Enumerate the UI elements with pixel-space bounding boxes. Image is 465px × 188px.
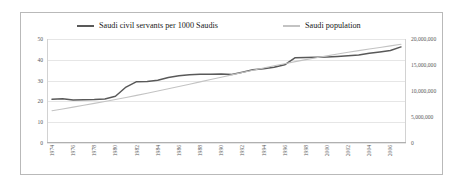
left-axis-tick-label: 30 xyxy=(37,78,43,84)
x-axis-tick-label: 1998 xyxy=(303,145,309,156)
legend-label-civil-servants: Saudi civil servants per 1000 Saudis xyxy=(99,22,218,30)
series-lines xyxy=(47,39,406,143)
gridline xyxy=(47,143,406,144)
left-axis-tick-label: 10 xyxy=(37,119,43,125)
x-axis-tick-label: 1982 xyxy=(134,145,140,156)
right-axis-tick-label: 15,000,000 xyxy=(411,62,436,68)
x-axis-tick-label: 1976 xyxy=(70,145,76,156)
right-axis-tick-label: 5,000,000 xyxy=(411,114,433,120)
legend-swatch-civil-servants xyxy=(77,25,94,27)
left-axis-tick-label: 20 xyxy=(37,98,43,104)
right-axis-tick-label: 10,000,000 xyxy=(411,88,436,94)
plot-area: 01020304050 05,000,00010,000,00015,000,0… xyxy=(47,39,406,143)
legend-label-population: Saudi population xyxy=(305,22,361,30)
x-axis-tick-label: 1986 xyxy=(176,145,182,156)
right-axis-tick-label: 0 xyxy=(411,140,414,146)
legend-item-civil-servants: Saudi civil servants per 1000 Saudis xyxy=(77,22,218,30)
left-axis-tick-label: 50 xyxy=(37,36,43,42)
x-axis-tick-label: 1990 xyxy=(218,145,224,156)
x-axis-tick-label: 1984 xyxy=(155,145,161,156)
x-axis-tick-label: 1980 xyxy=(112,145,118,156)
legend-item-population: Saudi population xyxy=(283,22,361,30)
x-axis-tick-label: 2004 xyxy=(366,145,372,156)
left-axis-tick-label: 40 xyxy=(37,57,43,63)
series-line xyxy=(52,47,401,100)
left-axis-tick-label: 0 xyxy=(40,140,43,146)
x-axis-tick-label: 2002 xyxy=(345,145,351,156)
x-axis-tick-label: 1992 xyxy=(239,145,245,156)
series-line xyxy=(52,44,401,110)
chart-legend: Saudi civil servants per 1000 Saudis Sau… xyxy=(21,21,442,37)
chart-frame: Saudi civil servants per 1000 Saudis Sau… xyxy=(20,12,443,175)
x-axis-tick-label: 1994 xyxy=(261,145,267,156)
x-axis-tick-label: 1988 xyxy=(197,145,203,156)
x-axis-tick-label: 1974 xyxy=(49,145,55,156)
legend-swatch-population xyxy=(283,25,300,27)
x-axis-tick-label: 2000 xyxy=(324,145,330,156)
x-axis-tick-label: 1978 xyxy=(91,145,97,156)
right-axis-tick-label: 20,000,000 xyxy=(411,36,436,42)
x-axis-tick-label: 1996 xyxy=(282,145,288,156)
x-axis-tick-label: 2006 xyxy=(387,145,393,156)
